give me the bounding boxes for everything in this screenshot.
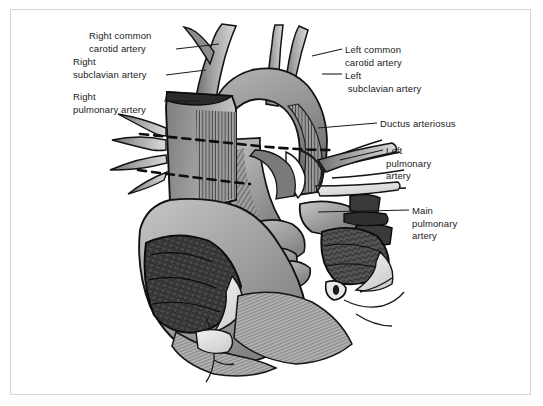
label-left-subclavian-artery: Left subclavian artery (345, 70, 421, 95)
right-pulmonary-artery-branches (110, 114, 167, 194)
label-ductus-arteriosus: Ductus arteriosus (380, 118, 456, 131)
leader-ductus-arteriosus (318, 123, 377, 128)
label-right-pulmonary-artery: Right pulmonary artery (73, 91, 146, 116)
leader-right-subclavian (166, 70, 206, 75)
coronary-sinus-band (196, 329, 233, 353)
label-right-common-carotid-artery: Right common carotid artery (89, 30, 151, 55)
label-main-pulmonary-artery: Main pulmonary artery (412, 205, 457, 243)
valve-orifice (333, 285, 339, 295)
label-left-pulmonary-artery: Left pulmonary artery (386, 145, 431, 183)
right-pulmonary-artery-stump-hatching (196, 110, 236, 203)
leader-left-common-carotid (312, 49, 342, 56)
pulmonary-branch-dark (344, 212, 388, 226)
left-pulmonary-vein-band (316, 182, 400, 196)
label-left-common-carotid-artery: Left common carotid artery (345, 44, 402, 69)
label-right-subclavian-artery: Right subclavian artery (73, 56, 147, 81)
